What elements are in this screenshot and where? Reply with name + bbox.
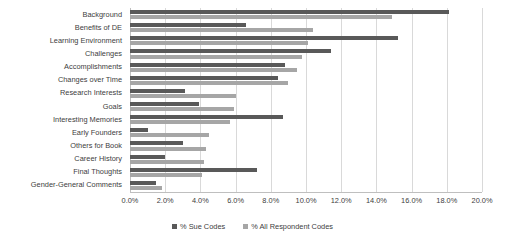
y-tick-label: Challenges bbox=[85, 50, 122, 57]
bar bbox=[130, 128, 148, 132]
bar bbox=[130, 141, 183, 145]
bar-group bbox=[130, 113, 482, 126]
bar bbox=[130, 49, 331, 53]
bar bbox=[130, 68, 297, 72]
bar bbox=[130, 15, 392, 19]
bar-group bbox=[130, 47, 482, 60]
y-tick-label: Final Thoughts bbox=[73, 168, 122, 175]
bar bbox=[130, 107, 234, 111]
y-tick-label: Interesting Memories bbox=[53, 116, 122, 123]
bar bbox=[130, 160, 204, 164]
x-axis-line bbox=[130, 192, 482, 193]
legend-item: % Sue Codes bbox=[172, 222, 225, 231]
y-tick-label: Changes over Time bbox=[58, 76, 122, 83]
bar bbox=[130, 36, 398, 40]
chart-legend: % Sue Codes% All Respondent Codes bbox=[0, 222, 505, 231]
x-tick-label: 16.0% bbox=[401, 196, 422, 205]
bar bbox=[130, 120, 230, 124]
legend-item: % All Respondent Codes bbox=[243, 222, 333, 231]
x-tick-label: 4.0% bbox=[192, 196, 209, 205]
y-tick-label: Learning Environment bbox=[50, 37, 122, 44]
bar bbox=[130, 41, 308, 45]
y-tick-label: Goals bbox=[103, 103, 122, 110]
x-tick-label: 8.0% bbox=[262, 196, 279, 205]
bar bbox=[130, 55, 302, 59]
y-axis-category-labels: BackgroundBenefits of DELearning Environ… bbox=[0, 8, 126, 192]
y-tick-label: Gender-General Comments bbox=[31, 181, 122, 188]
bar-group bbox=[130, 126, 482, 139]
bar-group bbox=[130, 34, 482, 47]
y-tick-label: Accomplishments bbox=[64, 63, 122, 70]
bar bbox=[130, 155, 165, 159]
bar bbox=[130, 89, 185, 93]
bar bbox=[130, 10, 449, 14]
y-tick-label: Early Founders bbox=[72, 129, 122, 136]
bar-rows bbox=[130, 8, 482, 192]
bar bbox=[130, 63, 285, 67]
x-tick-label: 2.0% bbox=[157, 196, 174, 205]
x-tick-label: 6.0% bbox=[227, 196, 244, 205]
x-tick-label: 12.0% bbox=[331, 196, 352, 205]
bar-group bbox=[130, 100, 482, 113]
bar-group bbox=[130, 8, 482, 21]
bar-group bbox=[130, 179, 482, 192]
bar bbox=[130, 76, 278, 80]
legend-swatch-icon bbox=[172, 224, 177, 229]
y-tick-label: Others for Book bbox=[70, 142, 122, 149]
x-axis-tick-labels: 0.0%2.0%4.0%6.0%8.0%10.0%12.0%14.0%16.0%… bbox=[0, 196, 505, 210]
x-tick-label: 14.0% bbox=[366, 196, 387, 205]
legend-label: % All Respondent Codes bbox=[251, 222, 333, 231]
bar bbox=[130, 147, 206, 151]
bar-group bbox=[130, 61, 482, 74]
bar bbox=[130, 81, 288, 85]
bar bbox=[130, 181, 156, 185]
x-tick-label: 20.0% bbox=[472, 196, 493, 205]
y-tick-label: Background bbox=[83, 11, 122, 18]
gridline-20.0% bbox=[482, 8, 483, 192]
bar bbox=[130, 94, 236, 98]
bar bbox=[130, 173, 202, 177]
bar-group bbox=[130, 166, 482, 179]
y-tick-label: Benefits of DE bbox=[75, 24, 122, 31]
bar bbox=[130, 102, 199, 106]
bar bbox=[130, 133, 209, 137]
bar bbox=[130, 115, 283, 119]
y-tick-label: Research Interests bbox=[60, 89, 122, 96]
bar bbox=[130, 186, 162, 190]
x-tick-label: 10.0% bbox=[296, 196, 317, 205]
bar-group bbox=[130, 139, 482, 152]
bar-group bbox=[130, 21, 482, 34]
bar bbox=[130, 23, 246, 27]
x-tick-label: 18.0% bbox=[436, 196, 457, 205]
x-tick-label: 0.0% bbox=[122, 196, 139, 205]
legend-swatch-icon bbox=[243, 224, 248, 229]
bar bbox=[130, 28, 313, 32]
bar-group bbox=[130, 74, 482, 87]
legend-label: % Sue Codes bbox=[180, 222, 225, 231]
bar bbox=[130, 168, 257, 172]
bar-group bbox=[130, 153, 482, 166]
y-tick-label: Career History bbox=[74, 155, 122, 162]
horizontal-bar-chart: BackgroundBenefits of DELearning Environ… bbox=[0, 0, 505, 247]
plot-area bbox=[130, 8, 482, 192]
bar-group bbox=[130, 87, 482, 100]
